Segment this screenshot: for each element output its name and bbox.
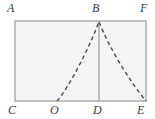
- point-label-D: D: [93, 104, 102, 116]
- point-label-E: E: [137, 104, 144, 116]
- rectangle-ACEF: [15, 21, 146, 101]
- point-label-F: F: [140, 2, 147, 14]
- point-label-O: O: [50, 104, 59, 116]
- point-label-B: B: [92, 2, 99, 14]
- figure-canvas: [0, 0, 155, 119]
- point-label-A: A: [7, 2, 14, 14]
- point-label-C: C: [8, 104, 16, 116]
- geometry-figure: A B F C O D E: [0, 0, 155, 119]
